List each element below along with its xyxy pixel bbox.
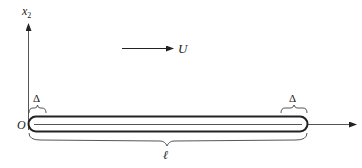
slender-body-diagram: x2 O U Δ Δ ℓ	[0, 0, 362, 168]
origin-label: O	[17, 118, 26, 132]
left-delta-brace	[29, 105, 46, 113]
slender-body	[29, 117, 308, 132]
left-delta-label: Δ	[33, 92, 40, 104]
length-brace	[29, 133, 307, 146]
right-delta-brace	[281, 105, 307, 113]
x2-axis-label: x2	[21, 4, 31, 20]
right-delta-label: Δ	[289, 92, 296, 104]
length-label: ℓ	[163, 148, 168, 162]
flow-velocity-label: U	[178, 41, 189, 56]
